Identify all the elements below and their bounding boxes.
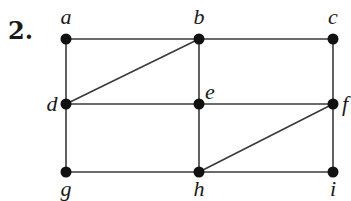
- vertex-label-c: c: [328, 4, 338, 29]
- vertex-label-a: a: [61, 4, 72, 29]
- vertex-label-f: f: [342, 91, 351, 116]
- vertex-f: [328, 99, 339, 110]
- vertex-d: [61, 99, 72, 110]
- vertex-label-e: e: [205, 79, 215, 104]
- graph-diagram: abcdefghi: [0, 0, 351, 201]
- edge-b-d: [66, 39, 199, 104]
- vertex-label-i: i: [330, 176, 336, 201]
- vertex-label-h: h: [194, 176, 205, 201]
- vertex-label-b: b: [194, 4, 205, 29]
- vertex-e: [194, 99, 205, 110]
- vertex-c: [328, 34, 339, 45]
- vertex-b: [194, 34, 205, 45]
- vertex-label-d: d: [47, 91, 59, 116]
- vertex-a: [61, 34, 72, 45]
- edge-f-h: [199, 104, 333, 172]
- vertex-label-g: g: [61, 176, 72, 201]
